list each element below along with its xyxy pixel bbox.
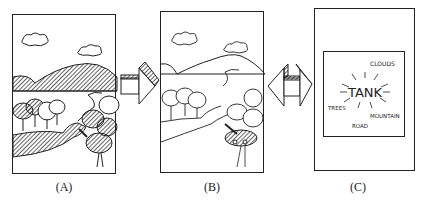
arrow-right-icon — [119, 60, 159, 110]
trees-group — [13, 99, 65, 131]
cloud-icon — [172, 32, 197, 45]
word-road: ROAD — [352, 123, 368, 129]
landscape-line-drawing — [161, 12, 265, 174]
word-clouds: CLOUDS — [370, 60, 395, 67]
panel-b — [160, 11, 264, 173]
panel-a — [12, 14, 116, 174]
cloud-icon — [78, 45, 102, 56]
word-map-box: TANK CLOUDS TREES MOUNTAIN ROAD — [323, 51, 405, 137]
caption-c: (C) — [338, 180, 378, 195]
river-shape — [13, 123, 86, 157]
trees-group — [162, 88, 263, 127]
landscape-shaded-drawing — [13, 15, 117, 175]
word-trees: TREES — [327, 105, 346, 111]
word-mountain: MOUNTAIN — [370, 113, 400, 119]
mountain-shape — [13, 64, 117, 92]
panel-c: TANK CLOUDS TREES MOUNTAIN ROAD — [314, 8, 415, 171]
word-tank: TANK — [347, 85, 383, 100]
arrow-left-icon — [266, 62, 316, 112]
tank-icon — [225, 124, 257, 167]
cloud-icon — [22, 33, 48, 46]
caption-a: (A) — [44, 180, 84, 195]
word-map: TANK CLOUDS TREES MOUNTAIN ROAD — [324, 52, 406, 138]
mountain-outline — [161, 55, 265, 74]
cloud-icon — [224, 42, 248, 53]
trees-group — [82, 96, 119, 167]
caption-b: (B) — [192, 180, 232, 195]
